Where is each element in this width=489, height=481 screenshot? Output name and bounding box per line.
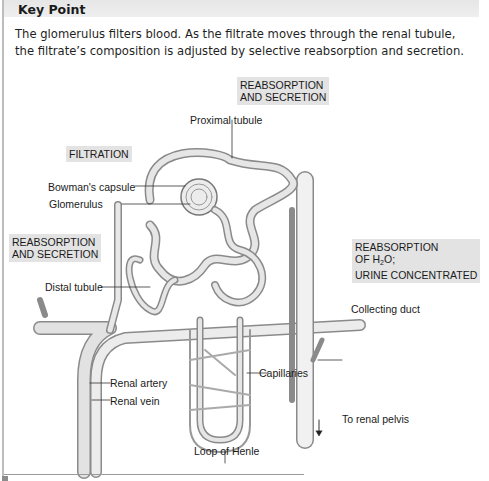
box-proximal-reabsorption: REABSORPTION AND SECRETION bbox=[237, 77, 329, 105]
box-distal-reabsorption: REABSORPTION AND SECRETION bbox=[9, 234, 101, 262]
label-renal-artery: Renal artery bbox=[110, 377, 167, 389]
box-line: AND SECRETION bbox=[240, 91, 326, 103]
label-proximal-tubule: Proximal tubule bbox=[190, 114, 262, 126]
box-collecting-reabsorption: REABSORPTION OF H2O; URINE CONCENTRATED bbox=[352, 239, 480, 283]
label-renal-vein: Renal vein bbox=[110, 395, 160, 407]
box-line: REABSORPTION bbox=[355, 241, 477, 253]
label-loop-of-henle: Loop of Henle bbox=[194, 445, 259, 457]
corner-marker bbox=[2, 476, 8, 481]
box-line: OF H2O; bbox=[355, 253, 477, 269]
label-glomerulus: Glomerulus bbox=[49, 198, 103, 210]
label-capillaries: Capillaries bbox=[259, 367, 308, 379]
box-line: URINE CONCENTRATED bbox=[355, 269, 477, 281]
box-line-part: OF H bbox=[355, 253, 380, 265]
box-line: FILTRATION bbox=[69, 148, 129, 160]
box-line: AND SECRETION bbox=[12, 248, 98, 260]
box-line: REABSORPTION bbox=[240, 79, 326, 91]
box-line-part: O; bbox=[384, 253, 395, 265]
label-bowmans-capsule: Bowman's capsule bbox=[48, 181, 135, 193]
label-distal-tubule: Distal tubule bbox=[45, 281, 103, 293]
label-to-renal-pelvis: To renal pelvis bbox=[342, 413, 409, 425]
bottom-divider bbox=[4, 474, 304, 475]
box-line: REABSORPTION bbox=[12, 236, 98, 248]
box-filtration: FILTRATION bbox=[66, 146, 132, 162]
label-collecting-duct: Collecting duct bbox=[351, 303, 420, 315]
